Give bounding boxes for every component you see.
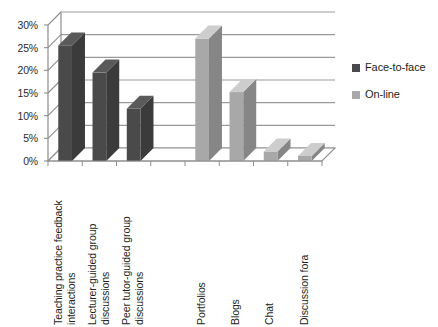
- legend-swatch-icon: [352, 64, 360, 72]
- x-category-label: Discussion fora: [298, 170, 311, 325]
- x-category-label: Lecturer-guided group discussions: [86, 170, 111, 325]
- legend-item[interactable]: Face-to-face: [352, 62, 438, 73]
- x-category-label: Peer tutor-guided group discussions: [120, 170, 145, 325]
- x-axis: Teaching practice feedback interactionsL…: [0, 0, 438, 327]
- x-category-label: Chat: [263, 170, 276, 325]
- x-category-label: Blogs: [229, 170, 242, 325]
- chart-container: 30%25%20%15%10%5%0% Teaching practice fe…: [0, 0, 438, 327]
- x-category-label: Portfolios: [195, 170, 208, 325]
- legend-label: Face-to-face: [365, 62, 426, 73]
- chart-legend: Face-to-faceOn-line: [352, 62, 438, 116]
- x-category-label: Teaching practice feedback interactions: [52, 170, 77, 325]
- legend-label: On-line: [365, 89, 400, 100]
- legend-swatch-icon: [352, 91, 360, 99]
- legend-item[interactable]: On-line: [352, 89, 438, 100]
